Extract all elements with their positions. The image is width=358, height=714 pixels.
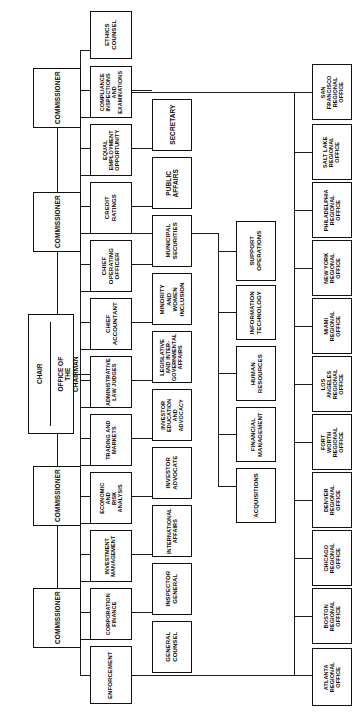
connector-division-stub <box>80 291 90 292</box>
division-label: TRADING AND MARKETS <box>105 420 117 459</box>
chair-title: CHAIR <box>36 364 43 385</box>
division-box-credit-ratings[interactable]: CREDIT RATINGS <box>90 182 132 234</box>
regional-office-box-miami[interactable]: MIAMI REGIONAL OFFICE <box>312 298 352 354</box>
division-label: CORPORATION FINANCE <box>105 593 117 635</box>
division-label: EQUAL EMPLOYMENT OPPORTUNITY <box>102 130 120 171</box>
division-box-alj[interactable]: ADMINISTRATIVE LAW JUDGES <box>90 356 132 408</box>
division-box-compliance[interactable]: COMPLIANCE INSPECTIONS AND EXAMINATIONS <box>90 66 132 118</box>
office-box-municipal-securities[interactable]: MUNICIPAL SECURITIES <box>152 215 192 267</box>
division-label: ENFORCEMENT <box>108 651 115 698</box>
regional-office-box-boston[interactable]: BOSTON REGIONAL OFFICE <box>312 588 352 644</box>
connector-regional-stub <box>294 152 312 153</box>
operations-label: ACQUISITIONS <box>253 473 260 518</box>
operations-box-information-technology[interactable]: INFORMATION TECHNOLOGY <box>236 285 276 340</box>
office-box-investor-education[interactable]: INVESTOR EDUCATION AND ADVOCACY <box>152 389 192 441</box>
regional-office-box-philadelphia[interactable]: PHILADELPHIA REGIONAL OFFICE <box>312 182 352 238</box>
division-box-economic-risk[interactable]: ECONOMIC AND RISK ANALYSIS <box>90 472 132 524</box>
commissioner-label: COMMISSIONER <box>53 592 60 645</box>
connector-operations-stub <box>218 251 236 252</box>
office-label: PUBLIC AFFAIRS <box>165 169 180 198</box>
division-label: COMPLIANCE INSPECTIONS AND EXAMINATIONS <box>99 71 124 114</box>
regional-office-box-salt-lake[interactable]: SALT LAKE REGIONAL OFFICE <box>312 124 352 180</box>
connector-division-stub <box>80 675 90 676</box>
connector-regional-stub <box>294 210 312 211</box>
operations-label: FINANCIAL MANAGEMENT <box>249 412 262 457</box>
connector-operations-stub <box>218 312 236 313</box>
office-box-international-affairs[interactable]: INTERNATIONAL AFFAIRS <box>152 505 192 557</box>
commissioner-box-4[interactable]: COMMISSIONER <box>33 588 81 648</box>
division-label: CHIEF OPERATING OFFICER <box>101 248 121 284</box>
office-box-inspector-general[interactable]: INSPECTOR GENERAL <box>152 563 192 615</box>
connector-regional-stub <box>294 384 312 385</box>
operations-box-financial-management[interactable]: FINANCIAL MANAGEMENT <box>236 407 276 462</box>
regional-office-box-los-angeles[interactable]: LOS ANGELES REGIONAL OFFICE <box>312 356 352 412</box>
division-label: ADMINISTRATIVE LAW JUDGES <box>105 358 117 406</box>
connector-division-stub <box>80 581 90 582</box>
office-label: INTERNATIONAL AFFAIRS <box>166 508 178 554</box>
operations-box-support-operations[interactable]: SUPPORT OPERATIONS <box>236 221 276 281</box>
operations-label: INFORMATION TECHNOLOGY <box>249 291 262 334</box>
office-box-general-counsel[interactable]: GENERAL COUNSEL <box>152 621 192 673</box>
connector-regional-stub <box>294 675 312 676</box>
division-box-coo[interactable]: CHIEF OPERATING OFFICER <box>90 240 132 292</box>
chair-office-label: OFFICE OF THE CHAIRMAN <box>57 356 79 391</box>
regional-office-label: NEW YORK REGIONAL OFFICE <box>323 253 341 284</box>
ethics-counsel-box[interactable]: ETHICS COUNSEL <box>90 11 132 59</box>
division-label: INVESTMENT MANAGEMENT <box>105 535 117 576</box>
ethics-counsel-label: ETHICS COUNSEL <box>104 20 117 50</box>
regional-office-box-atlanta[interactable]: ATLANTA REGIONAL OFFICE <box>312 648 352 706</box>
regional-office-box-fort-worth[interactable]: FORT WORTH REGIONAL OFFICE <box>312 414 352 470</box>
connector-operations-stub <box>218 486 236 487</box>
office-label: INVESTOR EDUCATION AND ADVOCACY <box>160 396 185 434</box>
regional-office-label: BOSTON REGIONAL OFFICE <box>323 601 341 631</box>
operations-box-human-resources[interactable]: HUMAN RESOURCES <box>236 346 276 401</box>
organization-chart: COMMISSIONER COMMISSIONER CHAIR OFFICE O… <box>0 0 358 714</box>
operations-box-acquisitions[interactable]: ACQUISITIONS <box>236 468 276 523</box>
division-label: ECONOMIC AND RISK ANALYSIS <box>99 478 124 518</box>
connector-ethics-stub <box>80 50 90 51</box>
regional-office-label: ATLANTA REGIONAL OFFICE <box>323 662 341 692</box>
connector-regional-stub <box>294 326 312 327</box>
division-box-investment-mgmt[interactable]: INVESTMENT MANAGEMENT <box>90 530 132 582</box>
office-box-minority-women-inclusion[interactable]: MINORITY AND WOMEN INCLUSION <box>152 273 192 325</box>
regional-office-box-new-york[interactable]: NEW YORK REGIONAL OFFICE <box>312 240 352 296</box>
regional-office-box-chicago[interactable]: CHICAGO REGIONAL OFFICE <box>312 530 352 586</box>
connector-operations-stub <box>218 434 236 435</box>
connector-regional-stub <box>294 268 312 269</box>
regional-office-box-san-francisco[interactable]: SAN FRANCISCO REGIONAL OFFICE <box>312 64 352 120</box>
regional-office-box-denver[interactable]: DENVER REGIONAL OFFICE <box>312 472 352 528</box>
division-box-eeo[interactable]: EQUAL EMPLOYMENT OPPORTUNITY <box>90 124 132 176</box>
office-box-legislative-affairs[interactable]: LEGISLATIVE AND INTER- GOVERNMENTAL AFFA… <box>152 331 192 383</box>
regional-office-label: MIAMI REGIONAL OFFICE <box>323 311 341 341</box>
connector-regional-stub <box>294 558 312 559</box>
connector-operations-stub <box>218 373 236 374</box>
commissioner-box-3[interactable]: COMMISSIONER <box>33 466 81 526</box>
regional-office-label: SALT LAKE REGIONAL OFFICE <box>323 136 341 167</box>
division-label: CHIEF ACCOUNTANT <box>104 303 117 346</box>
division-box-trading-markets[interactable]: TRADING AND MARKETS <box>90 414 132 466</box>
office-box-investor-advocate[interactable]: INVESTOR ADVOCATE <box>152 447 192 499</box>
operations-label: HUMAN RESOURCES <box>249 354 262 393</box>
regional-office-label: LOS ANGELES REGIONAL OFFICE <box>320 365 345 403</box>
division-box-corporation-finance[interactable]: CORPORATION FINANCE <box>90 588 132 640</box>
regional-office-label: PHILADELPHIA REGIONAL OFFICE <box>323 189 341 231</box>
division-box-enforcement[interactable]: ENFORCEMENT <box>90 646 132 704</box>
office-label: INVESTOR ADVOCATE <box>165 456 178 490</box>
office-box-secretary[interactable]: SECRETARY <box>152 99 192 151</box>
chair-box[interactable]: CHAIR OFFICE OF THE CHAIRMAN <box>28 314 74 434</box>
office-label: SECRETARY <box>168 105 175 145</box>
operations-label: SUPPORT OPERATIONS <box>249 231 262 271</box>
regional-office-label: SAN FRANCISCO REGIONAL OFFICE <box>320 73 345 111</box>
connector-division-stub <box>80 117 90 118</box>
office-label: GENERAL COUNSEL <box>165 632 178 662</box>
regional-office-label: FORT WORTH REGIONAL OFFICE <box>320 423 345 461</box>
commissioner-box-2[interactable]: COMMISSIONER <box>33 192 81 252</box>
office-label: MUNICIPAL SECURITIES <box>165 222 178 259</box>
connector-division-stub <box>80 233 90 234</box>
regional-office-label: DENVER REGIONAL OFFICE <box>323 485 341 515</box>
division-box-chief-accountant[interactable]: CHIEF ACCOUNTANT <box>90 298 132 350</box>
connector-division-stub <box>80 639 90 640</box>
office-box-public-affairs[interactable]: PUBLIC AFFAIRS <box>152 157 192 209</box>
commissioner-label: COMMISSIONER <box>53 196 60 249</box>
commissioner-box-1[interactable]: COMMISSIONER <box>33 68 81 128</box>
